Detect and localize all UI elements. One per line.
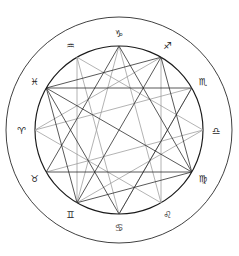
zodiac-glyph-capricorn: ♑: [115, 28, 124, 39]
aspect-line-virgo-pisces: [46, 88, 192, 172]
zodiac-glyph-gemini: ♊: [66, 209, 75, 220]
zodiac-glyph-aquarius: ♒: [66, 40, 75, 51]
zodiac-glyph-pisces: ♓: [30, 76, 39, 87]
zodiac-glyph-leo: ♌: [163, 209, 172, 220]
zodiac-glyph-libra: ♎: [212, 125, 221, 136]
aspect-line-gemini-virgo: [77, 172, 192, 203]
aspect-line-capricorn-virgo: [119, 46, 192, 172]
zodiac-glyph-taurus: ♉: [30, 173, 39, 184]
aspect-line-sagittarius-pisces: [46, 57, 161, 88]
aspect-line-libra-gemini: [77, 130, 203, 203]
aspect-line-gemini-pisces: [46, 88, 77, 203]
zodiac-glyph-virgo: ♍: [199, 173, 208, 184]
zodiac-glyph-scorpio: ♏: [199, 76, 208, 87]
astrology-wheel-figure: ♑♐♏♎♍♌♋♊♉♈♓♒: [0, 0, 239, 256]
zodiac-glyph-aries: ♈: [17, 125, 26, 136]
aspect-line-sagittarius-virgo: [161, 57, 192, 172]
wheel-canvas: ♑♐♏♎♍♌♋♊♉♈♓♒: [0, 0, 239, 256]
hard-aspect-lines: [46, 46, 192, 214]
aspect-line-pisces-cancer: [46, 88, 119, 214]
zodiac-glyph-sagittarius: ♐: [163, 40, 172, 51]
aspect-line-aries-sagittarius: [35, 57, 161, 130]
zodiac-glyph-cancer: ♋: [115, 222, 124, 233]
